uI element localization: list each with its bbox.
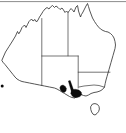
australia-map-svg [0,0,126,133]
tasmania-outline [91,104,100,115]
occurrence-dot-western-outlier [1,85,4,88]
australia-mainland-outline [2,4,116,99]
distribution-map-figure [0,0,126,133]
